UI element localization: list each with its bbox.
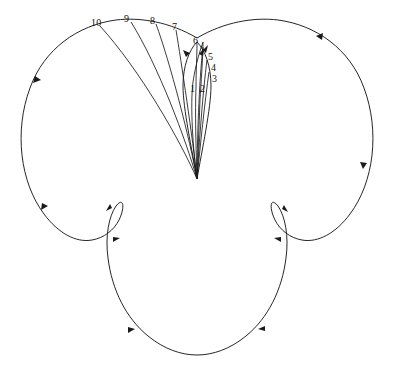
curve-label-9: 9 [124, 14, 129, 24]
curve-label-1: 1 [190, 84, 195, 94]
curve-label-7: 7 [172, 22, 177, 32]
curve-label-5: 5 [208, 52, 213, 62]
curve-label-3: 3 [212, 74, 217, 84]
figure-root: 1 2 3 4 5 6 7 8 9 10 [0, 0, 393, 367]
curve-label-4: 4 [211, 63, 216, 73]
curve-label-6: 6 [193, 36, 198, 46]
label-layer: 1 2 3 4 5 6 7 8 9 10 [0, 0, 393, 367]
curve-label-8: 8 [150, 16, 155, 26]
curve-label-2: 2 [200, 84, 205, 94]
curve-label-10: 10 [91, 18, 101, 28]
